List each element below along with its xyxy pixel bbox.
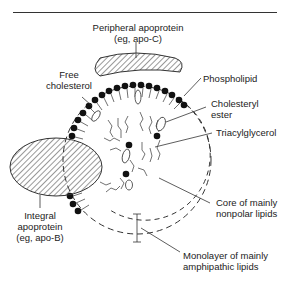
label-line: Peripheral apoprotein xyxy=(90,22,186,33)
label-line: (eg, apo-C) xyxy=(90,33,186,44)
label-peripheral-apoprotein: Peripheral apoprotein (eg, apo-C) xyxy=(90,22,186,44)
label-free-cholesterol: Free cholesterol xyxy=(44,69,94,91)
label-line: Cholesteryl xyxy=(211,98,259,109)
free-cholesterol-molecule xyxy=(135,90,141,104)
free-cholesterol-molecule-2 xyxy=(90,109,102,122)
label-line: Core of mainly xyxy=(216,197,277,208)
label-line: Integral xyxy=(10,210,70,221)
label-core: Core of mainly nonpolar lipids xyxy=(216,197,277,219)
label-line: cholesterol xyxy=(44,80,94,91)
label-line: Monolayer of mainly xyxy=(183,250,268,261)
peripheral-apoprotein-shape xyxy=(95,53,182,76)
label-monolayer: Monolayer of mainly amphipathic lipids xyxy=(183,250,268,272)
label-line: ester xyxy=(211,109,259,120)
label-integral-apoprotein: Integral apoprotein (eg, apo-B) xyxy=(10,210,70,243)
label-line: Free xyxy=(44,69,94,80)
label-line: (eg, apo-B) xyxy=(10,232,70,243)
integral-apoprotein-shape xyxy=(10,138,102,196)
label-line: apoprotein xyxy=(10,221,70,232)
label-line: amphipathic lipids xyxy=(183,261,268,272)
label-phospholipid: Phospholipid xyxy=(203,73,257,84)
label-triacylglycerol: Triacylglycerol xyxy=(216,127,276,138)
label-cholesteryl-ester: Cholesteryl ester xyxy=(211,98,259,120)
label-line: nonpolar lipids xyxy=(216,208,277,219)
